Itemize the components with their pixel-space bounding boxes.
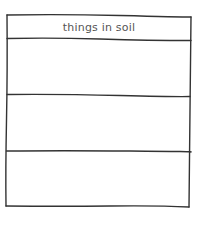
table-header-title: things in soil — [7, 16, 191, 39]
worksheet-table: things in soil — [0, 0, 197, 226]
table-row[interactable] — [8, 96, 190, 150]
table-row[interactable] — [8, 152, 190, 205]
table-row[interactable] — [8, 40, 190, 94]
